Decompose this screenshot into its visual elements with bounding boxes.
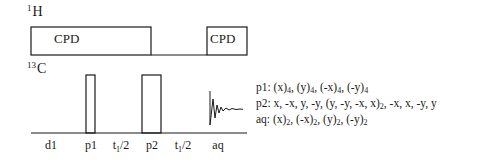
cpd-label-1: CPD <box>54 31 79 47</box>
label-p2: p2 <box>146 138 158 153</box>
proton-channel-label: 1H <box>27 3 43 20</box>
phase-cycle-p2: p2: x, -x, y, -y, (y, -y, -x, x)2, -x, x… <box>256 97 437 111</box>
phase-cycle-aq: aq: (x)2, (-x)2, (y)2, (-y)2 <box>256 113 368 127</box>
label-t1-half-1: t1/2 <box>113 138 130 154</box>
cpd-block-1 <box>31 27 151 55</box>
fid-signal-icon <box>210 91 243 125</box>
label-aq: aq <box>212 138 223 153</box>
pulse-p2 <box>142 75 161 133</box>
pulse-sequence-drawing <box>0 0 495 160</box>
carbon-channel-label: 13C <box>27 60 46 77</box>
pulse-p1 <box>86 75 95 133</box>
label-d1: d1 <box>45 138 57 153</box>
label-t1-half-2: t1/2 <box>175 138 192 154</box>
phase-cycle-p1: p1: (x)4, (y)4, (-x)4, (-y)4 <box>256 81 368 95</box>
cpd-label-2: CPD <box>210 31 235 47</box>
label-p1: p1 <box>85 138 97 153</box>
carbon-channel <box>31 75 247 133</box>
